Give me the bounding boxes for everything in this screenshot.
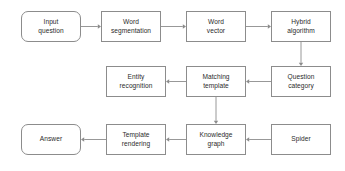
node-label-word-segmentation: Word segmentation <box>111 18 151 36</box>
node-label-question-category: Question category <box>288 73 315 91</box>
arrow-hybrid-algorithm-to-question-category <box>299 42 303 66</box>
node-label-matching-template: Matching template <box>202 73 229 91</box>
node-label-template-rendering: Template rendering <box>122 131 150 149</box>
arrow-head <box>166 79 169 83</box>
node-matching-template[interactable]: Matching template <box>186 66 246 97</box>
node-knowledge-graph[interactable]: Knowledge graph <box>186 124 246 155</box>
arrow-template-rendering-to-answer <box>81 137 106 141</box>
node-answer[interactable]: Answer <box>21 124 81 155</box>
node-label-knowledge-graph: Knowledge graph <box>199 131 232 149</box>
node-label-hybrid-algorithm: Hybrid algorithm <box>287 18 315 36</box>
node-label-input-question: Input question <box>38 18 63 36</box>
node-word-segmentation[interactable]: Word segmentation <box>101 11 161 42</box>
node-entity-recognition[interactable]: Entity recognition <box>106 66 166 97</box>
node-label-entity-recognition: Entity recognition <box>120 73 153 91</box>
node-label-answer: Answer <box>40 135 62 144</box>
arrow-word-vector-to-hybrid-algorithm <box>246 24 271 28</box>
node-spider[interactable]: Spider <box>271 124 331 155</box>
arrow-question-category-to-matching-template <box>246 79 271 83</box>
arrow-head <box>166 137 169 141</box>
node-label-word-vector: Word vector <box>207 18 225 36</box>
arrow-head <box>246 137 249 141</box>
node-hybrid-algorithm[interactable]: Hybrid algorithm <box>271 11 331 42</box>
node-word-vector[interactable]: Word vector <box>186 11 246 42</box>
arrow-matching-template-to-knowledge-graph <box>214 97 218 124</box>
arrow-word-segmentation-to-word-vector <box>161 24 186 28</box>
arrow-head <box>246 79 249 83</box>
flowchart-canvas: Input questionWord segmentationWord vect… <box>0 0 345 171</box>
arrow-matching-template-to-entity-recognition <box>166 79 186 83</box>
node-label-spider: Spider <box>291 135 310 144</box>
node-input-question[interactable]: Input question <box>21 11 81 42</box>
arrow-head <box>81 137 84 141</box>
node-question-category[interactable]: Question category <box>271 66 331 97</box>
arrow-input-question-to-word-segmentation <box>81 24 101 28</box>
arrow-knowledge-graph-to-template-rendering <box>166 137 186 141</box>
arrow-spider-to-knowledge-graph <box>246 137 271 141</box>
node-template-rendering[interactable]: Template rendering <box>106 124 166 155</box>
